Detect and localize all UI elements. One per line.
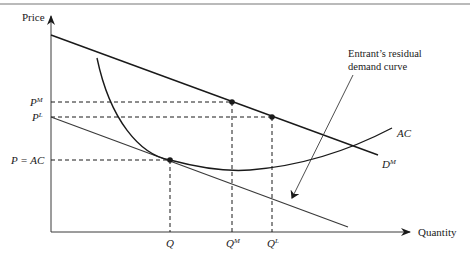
pm-label: PM xyxy=(29,96,44,108)
market-demand-curve xyxy=(51,35,378,155)
dm-label: DM xyxy=(381,158,397,170)
qm-label: QM xyxy=(226,237,241,249)
residual-demand-curve xyxy=(51,117,348,227)
pac-label: P = AC xyxy=(10,154,45,166)
annotation-arrow xyxy=(292,75,353,198)
q-label: Q xyxy=(166,237,174,249)
limit-pricing-diagram: Price Quantity PM PL P = AC Q QM QL AC D… xyxy=(0,0,470,253)
residual-demand-annotation: Entrant’s residual demand curve xyxy=(348,48,424,72)
dashed-guides xyxy=(51,102,272,232)
average-cost-curve xyxy=(97,58,392,171)
y-axis-label: Price xyxy=(22,11,45,23)
monopoly-point xyxy=(229,99,235,105)
pl-label: PL xyxy=(31,111,43,123)
limit-price-point xyxy=(269,114,275,120)
x-axis-label: Quantity xyxy=(418,226,457,238)
ac-label: AC xyxy=(396,127,412,139)
entrant-tangency-point xyxy=(167,157,173,163)
ql-label: QL xyxy=(267,237,279,249)
